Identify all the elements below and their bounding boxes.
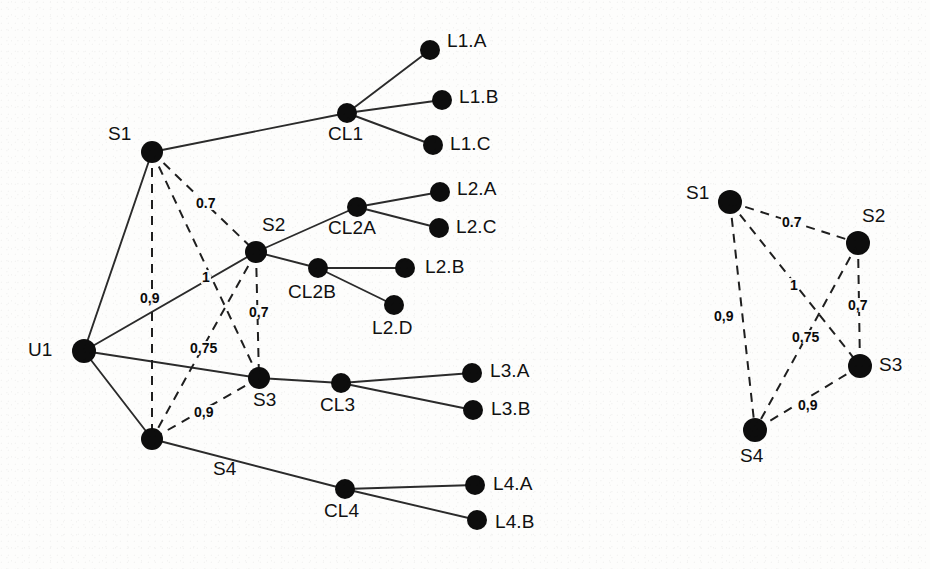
edge-CL4-L4A — [345, 485, 475, 489]
node-L4B[interactable] — [467, 510, 487, 530]
node-S4[interactable] — [141, 428, 163, 450]
node-label-L1B: L1.B — [459, 87, 499, 106]
edge-weight-S2-S3: 0,7 — [847, 298, 868, 312]
edge-U1-S3 — [84, 351, 259, 378]
edge-weight-S2-S4: 0,75 — [189, 341, 218, 355]
node-label-S1: S1 — [108, 124, 131, 143]
node-CL1[interactable] — [337, 103, 357, 123]
node-label-L4B: L4.B — [495, 512, 535, 531]
node-U1[interactable] — [72, 339, 96, 363]
node-S2[interactable] — [846, 231, 870, 255]
node-label-S4: S4 — [213, 459, 236, 478]
node-label-L1C: L1.C — [450, 134, 491, 153]
edge-U1-S1 — [84, 152, 152, 351]
node-S1[interactable] — [141, 141, 163, 163]
diagram-figure: U1S1S2S3S4CL1CL2ACL2BCL3CL4L1.AL1.BL1.CL… — [0, 0, 930, 569]
node-label-S3: S3 — [879, 355, 902, 374]
node-L1C[interactable] — [423, 135, 443, 155]
edge-CL4-L4B — [345, 489, 477, 520]
edge-S3-CL3 — [259, 378, 341, 383]
node-label-U1: U1 — [28, 340, 53, 359]
node-label-L1A: L1.A — [447, 31, 487, 50]
right-graph-edges-dashed — [730, 202, 860, 430]
edge-weight-S3-S4: 0,9 — [797, 398, 818, 412]
node-L1B[interactable] — [432, 90, 452, 110]
node-label-S3: S3 — [253, 390, 276, 409]
node-S4[interactable] — [743, 418, 767, 442]
node-label-L2D: L2.D — [372, 318, 413, 337]
node-label-L3A: L3.A — [490, 361, 530, 380]
edge-U1-S4 — [84, 351, 152, 439]
edge-weight-S2-S3: 0,7 — [248, 305, 269, 319]
edge-weight-S1-S3: 1 — [789, 278, 799, 292]
node-label-L2A: L2.A — [457, 179, 497, 198]
node-S3[interactable] — [848, 354, 872, 378]
node-S1[interactable] — [718, 190, 742, 214]
node-L3A[interactable] — [462, 363, 482, 383]
edge-weight-S1-S3: 1 — [201, 270, 211, 284]
node-label-S4: S4 — [740, 446, 763, 465]
edge-weight-S2-S4: 0,75 — [791, 330, 820, 344]
left-graph-nodes — [72, 40, 487, 530]
node-label-L3B: L3.B — [491, 399, 531, 418]
edge-CL3-L3A — [341, 373, 472, 383]
node-S2[interactable] — [245, 241, 267, 263]
edge-weight-S1-S2: 0.7 — [781, 215, 802, 229]
edge-weight-S1-S2: 0.7 — [195, 196, 216, 210]
node-label-CL4: CL4 — [324, 501, 359, 520]
node-label-CL2B: CL2B — [288, 282, 336, 301]
node-label-L2C: L2.C — [456, 217, 497, 236]
edge-CL2A-L2A — [357, 192, 440, 207]
node-label-L4A: L4.A — [493, 474, 533, 493]
node-L2A[interactable] — [430, 182, 450, 202]
node-CL3[interactable] — [331, 373, 351, 393]
node-L2D[interactable] — [384, 295, 404, 315]
node-label-L2B: L2.B — [425, 257, 465, 276]
node-label-S2: S2 — [862, 206, 885, 225]
node-L4A[interactable] — [465, 475, 485, 495]
node-label-CL1: CL1 — [328, 124, 363, 143]
edge-S4-CL4 — [152, 439, 345, 489]
node-CL2B[interactable] — [308, 258, 328, 278]
node-CL4[interactable] — [335, 479, 355, 499]
node-L2B[interactable] — [395, 258, 415, 278]
edge-weight-S1-S4: 0,9 — [713, 309, 734, 323]
left-graph-edges-solid — [84, 50, 477, 520]
node-L1A[interactable] — [420, 40, 440, 60]
node-S3[interactable] — [248, 367, 270, 389]
node-L2C[interactable] — [429, 218, 449, 238]
edge-weight-S3-S4: 0,9 — [193, 405, 214, 419]
node-CL2A[interactable] — [347, 197, 367, 217]
edge-S1-CL1 — [152, 113, 347, 152]
node-label-S1: S1 — [686, 183, 709, 202]
node-L3B[interactable] — [463, 400, 483, 420]
node-label-CL3: CL3 — [320, 395, 355, 414]
edge-weight-S1-S4: 0,9 — [139, 291, 160, 305]
node-label-CL2A: CL2A — [328, 218, 376, 237]
edge-U1-S2 — [84, 252, 256, 351]
edge-CL3-L3B — [341, 383, 473, 410]
node-label-S2: S2 — [262, 215, 285, 234]
